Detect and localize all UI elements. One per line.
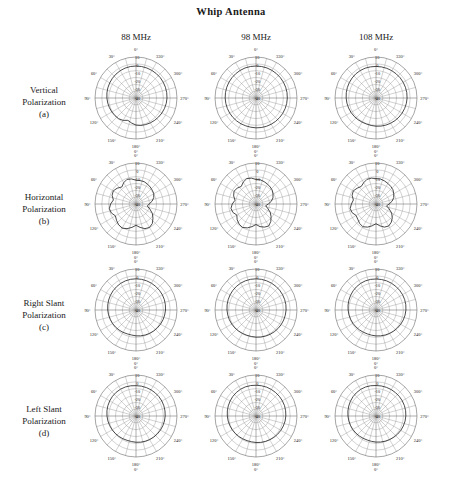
angle-tick-label: 270° — [300, 202, 309, 207]
radial-tick-label: -10 — [374, 283, 380, 288]
angle-tick-label: 210° — [276, 350, 285, 355]
angle-tick-label: 120° — [330, 120, 339, 125]
angle-tick-label: 60° — [211, 389, 217, 394]
radial-tick-label: -40 — [374, 202, 380, 207]
angle-tick-label: 300° — [414, 283, 423, 288]
radial-tick-label: -40 — [134, 96, 140, 101]
radial-tick-label: -30 — [134, 405, 140, 410]
angle-tick-label: 30° — [229, 372, 235, 377]
angle-tick-label: 30° — [349, 54, 355, 59]
radial-tick-label: -30 — [134, 87, 140, 92]
angle-tick-label: 330° — [276, 266, 285, 271]
angle-tick-label: 270° — [300, 414, 309, 419]
angle-tick-label: 330° — [396, 372, 405, 377]
row-label-line1: Right Slant — [2, 297, 86, 309]
angle-tick-label: 60° — [331, 283, 337, 288]
angle-tick-label: 330° — [276, 54, 285, 59]
angle-tick-label: 210° — [396, 138, 405, 143]
radial-tick-label: -10 — [134, 177, 140, 182]
row-label-line2: Polarization — [2, 203, 86, 215]
polar-plot: 0°30°60°90°120°150°180°210°240°270°300°3… — [84, 258, 188, 362]
angle-tick-label: 210° — [156, 138, 165, 143]
radial-tick-label: -20 — [374, 291, 380, 296]
radial-tick-label: 10 — [375, 161, 379, 166]
angle-tick-label: 150° — [108, 456, 117, 461]
radial-tick-label: 10 — [135, 267, 139, 272]
radial-tick-label: -10 — [134, 389, 140, 394]
angle-tick-label: 60° — [91, 389, 97, 394]
angle-tick-label: 300° — [174, 177, 183, 182]
angle-tick-label: 30° — [349, 372, 355, 377]
polar-plot: 0°30°60°90°120°150°180°210°240°270°300°3… — [204, 258, 308, 362]
angle-tick-label: 120° — [210, 226, 219, 231]
radial-tick-label: 10 — [255, 161, 259, 166]
angle-tick-label: 30° — [229, 266, 235, 271]
angle-tick-label: 300° — [174, 283, 183, 288]
angle-tick-label: 30° — [229, 54, 235, 59]
polar-plot: 0°30°60°90°120°150°180°210°240°270°300°3… — [204, 152, 308, 256]
radial-tick-label: 0 — [256, 63, 258, 68]
angle-tick-label: 300° — [414, 177, 423, 182]
angle-tick-label: 0° — [374, 259, 378, 264]
angle-tick-label: 90° — [204, 202, 210, 207]
radial-tick-label: -10 — [134, 71, 140, 76]
row-label-line2: Polarization — [2, 415, 86, 427]
angle-tick-label: 30° — [109, 54, 115, 59]
angle-tick-label: 90° — [84, 202, 90, 207]
radial-tick-label: 10 — [135, 55, 139, 60]
radial-tick-label: -10 — [374, 71, 380, 76]
angle-tick-label: 60° — [331, 177, 337, 182]
radial-tick-label: -30 — [134, 193, 140, 198]
angle-tick-label: 90° — [84, 414, 90, 419]
row-label-line1: Horizontal — [2, 191, 86, 203]
angle-tick-label: 0° — [134, 365, 138, 370]
radial-tick-label: -20 — [374, 397, 380, 402]
polar-plot: 0°30°60°90°120°150°180°210°240°270°300°3… — [84, 152, 188, 256]
angle-tick-label: 0° — [254, 47, 258, 52]
radial-tick-label: -40 — [134, 308, 140, 313]
angle-tick-label: 330° — [156, 54, 165, 59]
angle-tick-label: 240° — [294, 226, 303, 231]
angle-tick-label: 300° — [294, 177, 303, 182]
angle-bottom-label: 0° — [254, 467, 258, 472]
angle-tick-label: 240° — [174, 438, 183, 443]
angle-tick-label: 120° — [210, 120, 219, 125]
radial-tick-label: 0 — [376, 169, 378, 174]
angle-tick-label: 240° — [294, 332, 303, 337]
radial-tick-label: -20 — [134, 79, 140, 84]
angle-tick-label: 60° — [331, 71, 337, 76]
angle-tick-label: 300° — [294, 71, 303, 76]
radial-tick-label: -30 — [374, 405, 380, 410]
angle-tick-label: 210° — [396, 350, 405, 355]
angle-tick-label: 330° — [396, 160, 405, 165]
angle-tick-label: 0° — [374, 365, 378, 370]
angle-tick-label: 0° — [374, 47, 378, 52]
angle-tick-label: 120° — [330, 438, 339, 443]
radial-tick-label: 10 — [255, 267, 259, 272]
angle-tick-label: 60° — [331, 389, 337, 394]
angle-tick-label: 0° — [254, 365, 258, 370]
radial-tick-label: 10 — [135, 373, 139, 378]
angle-tick-label: 60° — [91, 71, 97, 76]
angle-tick-label: 60° — [91, 177, 97, 182]
row-label-line2: Polarization — [2, 96, 86, 108]
angle-tick-label: 240° — [174, 332, 183, 337]
angle-tick-label: 270° — [420, 96, 429, 101]
polar-plot: 0°30°60°90°120°150°180°210°240°270°300°3… — [324, 258, 428, 362]
row-label-left-slant: Left Slant Polarization (d) — [2, 403, 86, 439]
angle-tick-label: 330° — [396, 54, 405, 59]
angle-tick-label: 150° — [348, 456, 357, 461]
angle-tick-label: 90° — [324, 96, 330, 101]
radial-tick-label: 10 — [375, 373, 379, 378]
radial-tick-label: -40 — [374, 96, 380, 101]
angle-tick-label: 150° — [108, 244, 117, 249]
angle-tick-label: 210° — [156, 456, 165, 461]
angle-tick-label: 300° — [294, 389, 303, 394]
radial-tick-label: -40 — [374, 308, 380, 313]
angle-tick-label: 0° — [254, 153, 258, 158]
angle-tick-label: 30° — [109, 160, 115, 165]
radial-tick-label: -20 — [134, 397, 140, 402]
angle-tick-label: 60° — [91, 283, 97, 288]
angle-tick-label: 270° — [420, 202, 429, 207]
angle-tick-label: 150° — [228, 244, 237, 249]
